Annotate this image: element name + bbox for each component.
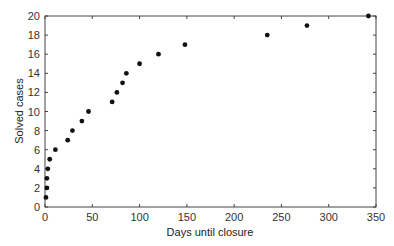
data-point	[183, 42, 188, 47]
x-tick-label: 250	[272, 211, 290, 223]
y-tick-label: 6	[34, 144, 40, 156]
axis-ticks: 05010015020025030035002468101214161820	[28, 10, 385, 223]
data-point	[79, 119, 84, 124]
x-tick-label: 200	[225, 211, 243, 223]
y-tick-label: 0	[34, 201, 40, 213]
y-tick-label: 4	[34, 163, 40, 175]
data-point	[53, 147, 58, 152]
y-axis-label: Solved cases	[13, 78, 25, 144]
y-tick-label: 8	[34, 125, 40, 137]
data-point	[44, 176, 49, 181]
y-tick-label: 12	[28, 86, 40, 98]
data-point	[120, 80, 125, 85]
y-tick-label: 20	[28, 10, 40, 22]
data-point	[156, 52, 161, 57]
data-point	[65, 138, 70, 143]
x-tick-label: 300	[320, 211, 338, 223]
data-point	[47, 157, 52, 162]
data-point	[86, 109, 91, 114]
x-tick-label: 0	[42, 211, 48, 223]
data-point	[124, 71, 129, 76]
y-tick-label: 18	[28, 29, 40, 41]
data-point	[137, 61, 142, 66]
x-tick-label: 100	[130, 211, 148, 223]
data-point	[45, 166, 50, 171]
data-point	[114, 90, 119, 95]
x-tick-label: 50	[86, 211, 98, 223]
x-tick-label: 350	[367, 211, 385, 223]
y-tick-label: 10	[28, 106, 40, 118]
data-point	[110, 100, 115, 105]
plot-area	[45, 16, 376, 207]
y-tick-label: 2	[34, 182, 40, 194]
y-tick-label: 14	[28, 67, 40, 79]
data-point	[366, 14, 371, 19]
scatter-chart: 05010015020025030035002468101214161820 D…	[0, 0, 394, 246]
data-point	[44, 186, 49, 191]
data-points	[44, 14, 371, 200]
data-point	[305, 23, 310, 28]
plot-border	[45, 16, 376, 207]
x-tick-label: 150	[178, 211, 196, 223]
y-tick-label: 16	[28, 48, 40, 60]
data-point	[44, 195, 49, 200]
data-point	[70, 128, 75, 133]
data-point	[265, 33, 270, 38]
x-axis-label: Days until closure	[167, 226, 254, 238]
